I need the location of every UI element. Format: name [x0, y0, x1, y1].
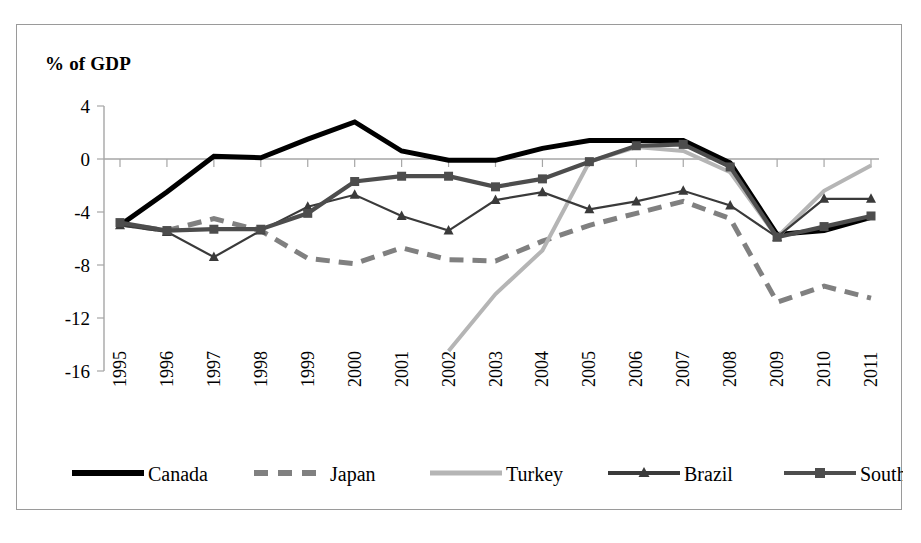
legend-label-turkey: Turkey — [506, 463, 563, 486]
legend-label-canada: Canada — [148, 463, 208, 485]
marker-triangle — [350, 189, 360, 199]
y-tick-label: -4 — [74, 202, 90, 223]
x-tick-label: 2001 — [392, 351, 412, 387]
legend-label-japan: Japan — [330, 463, 376, 486]
y-tick-label: -8 — [74, 255, 90, 276]
x-tick-label: 2005 — [579, 351, 599, 387]
x-tick-label: 1998 — [251, 351, 271, 387]
marker-square — [867, 211, 876, 220]
series-line-turkey — [449, 147, 871, 351]
marker-triangle — [537, 187, 547, 197]
legend-label-south-africa: South Africa — [860, 463, 903, 485]
y-tick-label: -12 — [65, 308, 90, 329]
y-tick-label: 4 — [81, 96, 91, 117]
marker-square — [303, 209, 312, 218]
x-tick-label: 1996 — [157, 351, 177, 387]
marker-square — [773, 233, 782, 242]
marker-square — [162, 226, 171, 235]
marker-square — [538, 174, 547, 183]
x-tick-label: 2008 — [720, 351, 740, 387]
x-tick-label: 1997 — [204, 351, 224, 387]
x-tick-label: 2004 — [532, 351, 552, 387]
series-line-canada — [120, 122, 871, 235]
x-tick-label: 1995 — [110, 351, 130, 387]
x-tick-label: 2007 — [673, 351, 693, 387]
marker-square — [679, 140, 688, 149]
marker-square — [726, 162, 735, 171]
marker-square — [116, 218, 125, 227]
marker-triangle — [678, 185, 688, 195]
line-chart-plot: 40-4-8-12-161995199619971998199920002001… — [17, 25, 903, 511]
marker-square — [820, 222, 829, 231]
series-line-japan — [120, 201, 871, 302]
marker-square — [256, 225, 265, 234]
legend-marker-square — [815, 468, 825, 478]
chart-frame: % of GDP 40-4-8-12-161995199619971998199… — [16, 24, 902, 510]
x-tick-label: 1999 — [298, 351, 318, 387]
marker-square — [397, 172, 406, 181]
marker-square — [350, 177, 359, 186]
x-tick-label: 2003 — [486, 351, 506, 387]
marker-square — [209, 225, 218, 234]
x-tick-label: 2009 — [767, 351, 787, 387]
legend-label-brazil: Brazil — [684, 463, 733, 485]
y-tick-label: -16 — [65, 361, 90, 382]
marker-square — [585, 157, 594, 166]
x-tick-label: 2000 — [345, 351, 365, 387]
marker-square — [632, 141, 641, 150]
x-tick-label: 2011 — [861, 352, 881, 387]
x-tick-label: 2002 — [439, 351, 459, 387]
marker-square — [444, 172, 453, 181]
x-tick-label: 2010 — [814, 351, 834, 387]
x-tick-label: 2006 — [626, 351, 646, 387]
y-tick-label: 0 — [81, 149, 91, 170]
marker-square — [491, 182, 500, 191]
